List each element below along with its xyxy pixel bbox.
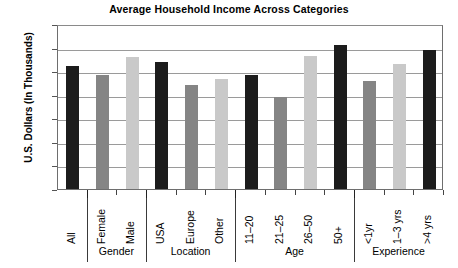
x-tick-mark (384, 190, 385, 195)
x-tick-mark (443, 190, 444, 195)
x-tick-mark (324, 190, 325, 195)
bar (393, 64, 406, 189)
x-category-label: 21–25 (274, 215, 285, 244)
x-category-label: Female (96, 209, 107, 244)
x-axis-group-labels: GenderLocationAgeExperience (57, 244, 443, 266)
group-label: Location (146, 245, 235, 257)
x-category-label: 50+ (333, 226, 344, 244)
x-category-label: >4 yrs (422, 215, 433, 244)
bar-chart: Average Household Income Across Categori… (0, 0, 458, 268)
x-category-label: 26–50 (303, 215, 314, 244)
plot-area (57, 25, 443, 190)
bar (304, 56, 317, 189)
gridline (58, 50, 442, 51)
y-axis-title: U.S. Dollars (In Thousands) (23, 18, 34, 178)
bar (185, 85, 198, 189)
x-category-label: Male (125, 221, 136, 244)
x-tick-mark (265, 190, 266, 195)
x-tick-mark (116, 190, 117, 195)
x-category-label: USA (155, 222, 166, 244)
chart-title: Average Household Income Across Categori… (0, 3, 458, 15)
bar (423, 50, 436, 189)
bar (155, 62, 168, 189)
bar (274, 97, 287, 189)
group-label: Experience (354, 245, 443, 257)
x-category-label: Europe (185, 210, 196, 244)
x-category-label: 11–20 (244, 216, 255, 244)
x-tick-mark (413, 190, 414, 195)
x-category-label: <1yr (363, 223, 374, 244)
x-category-label: Other (214, 218, 225, 244)
bar (126, 57, 139, 189)
bar (66, 66, 79, 189)
bar (96, 75, 109, 189)
group-label: Gender (87, 245, 146, 257)
bar (215, 79, 228, 189)
bar (363, 81, 376, 189)
x-category-label: All (66, 232, 77, 244)
bar (334, 45, 347, 189)
x-tick-mark (295, 190, 296, 195)
group-label: Age (235, 245, 354, 257)
x-category-label: 1–3 yrs (392, 210, 403, 244)
x-axis-category-labels: AllFemaleMaleUSAEuropeOther11–2021–2526–… (57, 198, 443, 244)
bar (245, 75, 258, 189)
x-tick-mark (176, 190, 177, 195)
x-tick-mark (205, 190, 206, 195)
